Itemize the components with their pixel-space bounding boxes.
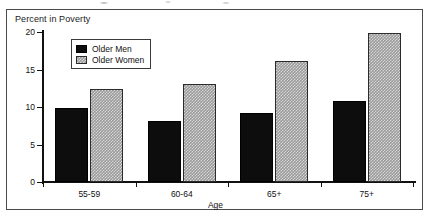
y-tick-mark	[37, 32, 42, 33]
y-tick-mark	[37, 70, 42, 71]
bar-older-men-60-64	[148, 121, 181, 182]
x-tick-mark	[413, 183, 414, 187]
bar-older-women-75plus	[368, 33, 401, 182]
x-tick-mark	[43, 183, 44, 187]
legend-label-older-women: Older Women	[92, 55, 144, 65]
bar-older-men-55-59	[55, 108, 88, 182]
bar-older-women-60-64	[183, 84, 216, 182]
bar-older-men-65plus	[240, 113, 273, 182]
chart-figure: Percent in Poverty 05101520 55-5960-6465…	[6, 9, 423, 210]
bar-older-women-55-59	[90, 89, 123, 182]
x-tick-label: 55-59	[78, 189, 100, 199]
y-tick-label: 20	[9, 27, 35, 37]
y-tick-label: 0	[9, 177, 35, 187]
x-tick-label: 75+	[360, 189, 374, 199]
x-tick-mark	[136, 183, 137, 187]
bar-older-men-75plus	[333, 101, 366, 182]
hatched-square-icon	[76, 56, 87, 64]
x-tick-mark	[321, 183, 322, 187]
y-tick-mark	[37, 107, 42, 108]
chart-legend: Older Men Older Women	[71, 39, 151, 69]
x-tick-mark	[228, 183, 229, 187]
y-tick-label: 5	[9, 140, 35, 150]
y-tick-mark	[37, 145, 42, 146]
x-axis-title: Age	[7, 200, 424, 210]
scan-artifact	[0, 0, 431, 7]
legend-label-older-men: Older Men	[92, 44, 132, 54]
y-tick-mark	[37, 182, 42, 183]
filled-square-icon	[76, 45, 87, 53]
chart-title: Percent in Poverty	[15, 14, 90, 24]
x-tick-label: 65+	[267, 189, 281, 199]
y-tick-label: 10	[9, 102, 35, 112]
legend-item-older-women: Older Women	[76, 54, 144, 65]
bar-older-women-65plus	[275, 61, 308, 183]
y-tick-label: 15	[9, 65, 35, 75]
legend-item-older-men: Older Men	[76, 43, 144, 54]
x-tick-label: 60-64	[171, 189, 193, 199]
